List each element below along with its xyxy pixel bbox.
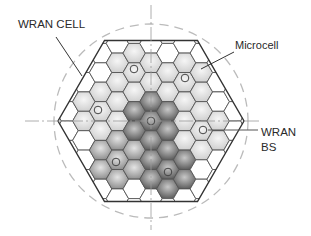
- wran-cell-diagram: [0, 0, 311, 236]
- wran-cell-label: WRAN CELL: [18, 19, 85, 31]
- microcell: [173, 208, 195, 227]
- microcell: [173, 14, 195, 33]
- wran-bs-label-line1: WRAN: [261, 127, 296, 139]
- microcell: [56, 160, 78, 179]
- microcell-label: Microcell: [235, 40, 278, 51]
- microcell: [241, 92, 263, 111]
- wran-bs-label-line2: BS: [261, 142, 276, 154]
- microcell: [241, 131, 263, 150]
- wran-cell-leader-line: [56, 37, 82, 76]
- microcell: [106, 14, 128, 33]
- microcell: [106, 208, 128, 227]
